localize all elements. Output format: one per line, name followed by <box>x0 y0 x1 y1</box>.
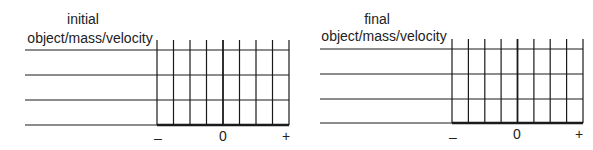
axis-minus-label: – <box>449 129 457 145</box>
panel-subtitle-final: object/mass/velocity <box>321 28 446 44</box>
panel-initial: initial object/mass/velocity – 0 + <box>25 11 290 146</box>
panel-subtitle-initial: object/mass/velocity <box>27 30 152 46</box>
axis-plus-label: + <box>282 128 290 144</box>
panel-title-initial: initial <box>67 11 99 27</box>
diagram-canvas: initial object/mass/velocity – 0 + final… <box>0 0 593 150</box>
grid-columns-final <box>452 39 583 123</box>
axis-zero-label: 0 <box>513 126 521 142</box>
panel-title-final: final <box>364 11 390 27</box>
grid-columns-initial <box>157 40 289 125</box>
axis-plus-label: + <box>575 126 583 142</box>
axis-minus-label: – <box>154 130 162 146</box>
axis-zero-label: 0 <box>219 128 227 144</box>
panel-final: final object/mass/velocity – 0 + <box>320 11 583 145</box>
